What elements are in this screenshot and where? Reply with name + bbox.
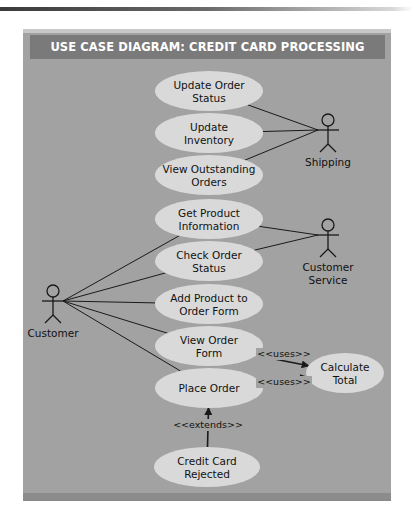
use-case-label: View Outstanding bbox=[163, 163, 256, 175]
use-case-label: Status bbox=[192, 262, 225, 274]
use-case-label: Update bbox=[190, 121, 228, 133]
stick-figure-icon bbox=[42, 285, 64, 323]
stereotype-label: <<uses>> bbox=[257, 376, 311, 387]
actor-customer[interactable]: Customer bbox=[27, 285, 79, 339]
use-case-label: Orders bbox=[191, 176, 226, 188]
use-case-view-outstanding-orders[interactable]: View OutstandingOrders bbox=[155, 155, 263, 195]
use-case-add-product-to-order-form[interactable]: Add Product toOrder Form bbox=[155, 284, 263, 324]
use-case-place-order[interactable]: Place Order bbox=[155, 368, 263, 408]
use-case-label: Update Order bbox=[173, 79, 245, 91]
use-case-label: Calculate bbox=[320, 361, 369, 373]
association-customer-view-order-form bbox=[63, 301, 167, 333]
association-shipping-update-inventory bbox=[263, 130, 318, 132]
use-case-view-order-form[interactable]: View OrderForm bbox=[155, 326, 263, 366]
use-case-label: Add Product to bbox=[170, 292, 247, 304]
use-case-label: Form bbox=[196, 347, 222, 359]
association-customer-service-check-order-status bbox=[254, 235, 318, 250]
use-case-credit-card-rejected[interactable]: Credit CardRejected bbox=[154, 447, 260, 487]
actor-customer-service[interactable]: CustomerService bbox=[302, 219, 354, 286]
use-case-label: Information bbox=[179, 220, 240, 232]
use-case-check-order-status[interactable]: Check OrderStatus bbox=[155, 241, 263, 281]
association-customer-service-get-product-information bbox=[259, 226, 318, 235]
use-case-label: Status bbox=[192, 92, 225, 104]
use-case-label: Order Form bbox=[179, 305, 239, 317]
use-case-label: Total bbox=[332, 374, 358, 386]
use-case-get-product-information[interactable]: Get ProductInformation bbox=[155, 199, 263, 239]
use-case-label: Check Order bbox=[176, 249, 242, 261]
use-case-label: Inventory bbox=[184, 134, 234, 146]
use-case-update-inventory[interactable]: UpdateInventory bbox=[155, 113, 263, 153]
actor-label: Service bbox=[309, 274, 348, 286]
stereotype-label: <<uses>> bbox=[257, 348, 311, 359]
use-case-diagram: Update OrderStatusUpdateInventoryView Ou… bbox=[0, 0, 413, 528]
stick-figure-icon bbox=[317, 219, 339, 257]
actor-label: Customer bbox=[302, 261, 354, 273]
stick-figure-icon bbox=[317, 114, 339, 152]
actor-label: Customer bbox=[27, 327, 79, 339]
actor-shipping[interactable]: Shipping bbox=[305, 114, 351, 168]
stereotype-label: <<extends>> bbox=[173, 419, 243, 430]
use-case-label: Get Product bbox=[178, 207, 240, 219]
use-case-update-order-status[interactable]: Update OrderStatus bbox=[155, 71, 263, 111]
use-case-label: View Order bbox=[180, 334, 239, 346]
association-customer-check-order-status bbox=[63, 273, 166, 301]
use-case-calculate-total[interactable]: CalculateTotal bbox=[306, 353, 384, 393]
association-customer-add-product-to-order-form bbox=[63, 301, 155, 303]
actor-label: Shipping bbox=[305, 156, 351, 168]
use-case-label: Credit Card bbox=[177, 455, 236, 467]
use-case-label: Place Order bbox=[178, 382, 240, 394]
use-case-label: Rejected bbox=[184, 468, 230, 480]
